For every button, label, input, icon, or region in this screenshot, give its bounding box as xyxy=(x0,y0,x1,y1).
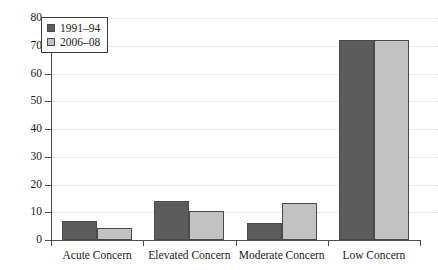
legend-item-series-0: 1991–94 xyxy=(47,21,100,35)
bar-chart: 01020304050607080 Acute ConcernElevated … xyxy=(0,0,438,270)
bar xyxy=(97,228,132,240)
y-tick-label: 10 xyxy=(12,206,42,218)
x-tick-label: Moderate Concern xyxy=(236,249,328,262)
legend-swatch-icon xyxy=(47,24,55,32)
y-tick-label: 80 xyxy=(12,12,42,24)
x-tick-mark xyxy=(328,240,329,246)
y-tick-mark xyxy=(45,129,51,130)
plot-area xyxy=(52,18,438,240)
bar xyxy=(62,221,97,240)
y-tick-mark xyxy=(45,185,51,186)
legend: 1991–94 2006–08 xyxy=(41,17,108,53)
x-tick-mark xyxy=(236,240,237,246)
legend-swatch-icon xyxy=(47,38,55,46)
y-tick-label: 20 xyxy=(12,179,42,191)
bar xyxy=(282,203,317,240)
legend-label: 1991–94 xyxy=(60,22,100,34)
x-tick-mark xyxy=(420,240,421,246)
legend-label: 2006–08 xyxy=(60,36,100,48)
bar xyxy=(339,40,374,240)
legend-item-series-1: 2006–08 xyxy=(47,35,100,49)
y-tick-label: 30 xyxy=(12,151,42,163)
bar xyxy=(247,223,282,240)
y-tick-label: 50 xyxy=(12,95,42,107)
x-tick-mark xyxy=(51,240,52,246)
y-tick-label: 0 xyxy=(12,234,42,246)
x-tick-mark xyxy=(143,240,144,246)
y-tick-mark xyxy=(45,101,51,102)
y-tick-mark xyxy=(45,74,51,75)
y-tick-label: 40 xyxy=(12,123,42,135)
y-tick-mark xyxy=(45,157,51,158)
y-tick-label: 60 xyxy=(12,68,42,80)
y-tick-mark xyxy=(45,212,51,213)
bar xyxy=(374,40,409,240)
x-tick-label: Elevated Concern xyxy=(143,249,235,262)
y-tick-label: 70 xyxy=(12,40,42,52)
gridline xyxy=(52,18,438,19)
bar xyxy=(189,211,224,240)
x-tick-label: Acute Concern xyxy=(51,249,143,262)
x-tick-label: Low Concern xyxy=(328,249,420,262)
bar xyxy=(154,201,189,240)
